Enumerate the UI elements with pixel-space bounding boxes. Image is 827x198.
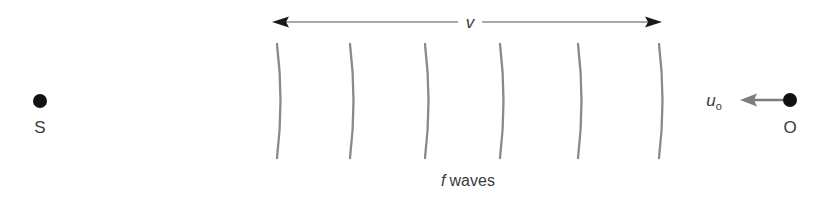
- observer-velocity-label: uo: [706, 91, 722, 112]
- wave-speed-axis: v: [272, 13, 662, 32]
- wavefront-arc: [500, 44, 504, 158]
- wavefront-arc: [425, 44, 429, 158]
- wavefront-group: [277, 44, 663, 158]
- wave-speed-label: v: [466, 13, 476, 32]
- observer-label: O: [783, 118, 796, 137]
- source-label: S: [34, 118, 45, 137]
- doppler-diagram: S v fwaves uo O: [0, 0, 827, 198]
- doppler-svg-canvas: S v fwaves uo O: [0, 0, 827, 198]
- wavefront-arc: [659, 44, 663, 158]
- observer-velocity-arrow: uo: [706, 91, 786, 112]
- wavefront-arc: [578, 44, 582, 158]
- wavefront-count-label: fwaves: [441, 172, 495, 189]
- wavefront-arc: [277, 44, 281, 158]
- wavefront-arc: [350, 44, 354, 158]
- source-point-dot: [33, 94, 47, 108]
- observer-point-dot: [783, 93, 797, 107]
